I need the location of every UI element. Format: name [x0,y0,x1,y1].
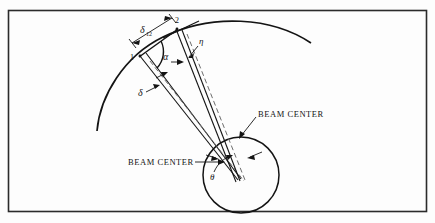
eta-arrow-right-icon [177,59,184,65]
circle-arrow-left-icon [211,156,219,161]
delta12-subscript-label: 12 [146,31,152,37]
delta12-dimension-line [132,18,172,43]
delta12-label: δ [140,24,145,35]
beam-center-upper-label: BEAM CENTER [258,109,324,119]
delta12-label-group: δ 12 [140,24,152,37]
eta-label: η [199,36,204,46]
delta-gap-arrows [146,72,168,92]
circle-arrow-right-icon [247,155,255,160]
alpha-label: α [163,51,169,62]
beam-center-diagram: 1 2 δ 12 α η δ θ BEAM CENTER BEAM CENTER [0,0,435,223]
point-two-marker [176,28,179,31]
figure-container: 1 2 δ 12 α η δ θ BEAM CENTER BEAM CENTER [0,0,435,223]
chord-one-two [139,29,178,57]
delta-label: δ [138,87,143,98]
point-one-label: 1 [130,53,134,62]
point-one-marker [139,55,142,58]
beam-center-lower-label: BEAM CENTER [128,157,194,167]
point-two-label: 2 [175,16,179,25]
theta-label: θ [210,172,215,182]
beam-center-upper-leader [239,117,256,139]
